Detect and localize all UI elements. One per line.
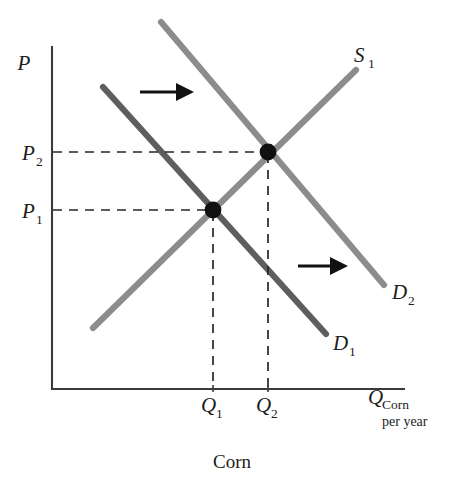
shift-arrow-lower-head <box>330 257 348 275</box>
diagram-canvas: P Q Corn per year P 2 P 1 Q 1 Q 2 S 1 <box>0 0 456 495</box>
x-axis-label-sub: Corn <box>382 397 409 412</box>
price-tick-p2-base: P <box>21 141 35 165</box>
curve-label-s1-subscript: 1 <box>368 56 375 71</box>
curves-group <box>93 22 384 334</box>
figure-caption: Corn <box>213 451 252 472</box>
price-tick-label-p2: P 2 <box>21 141 43 169</box>
equilibrium-dot-new <box>260 144 277 161</box>
price-tick-p2-subscript: 2 <box>36 154 43 169</box>
price-tick-p1-base: P <box>21 199 35 223</box>
price-tick-label-p1: P 1 <box>21 199 43 227</box>
supply-curve-s1 <box>93 70 356 328</box>
curve-label-d2-base: D <box>391 280 407 304</box>
curve-label-s1: S 1 <box>354 43 375 71</box>
shift-arrow-upper-head <box>176 83 194 101</box>
shift-arrow-upper <box>140 83 194 101</box>
quantity-tick-q1-subscript: 1 <box>216 406 223 421</box>
x-axis-label-main: Q <box>368 385 383 409</box>
quantity-tick-q2-base: Q <box>256 393 271 417</box>
curve-label-d1: D 1 <box>332 331 356 359</box>
supply-demand-figure: P Q Corn per year P 2 P 1 Q 1 Q 2 S 1 <box>0 0 456 495</box>
quantity-tick-q2-subscript: 2 <box>271 406 278 421</box>
curve-label-s1-base: S <box>354 43 365 67</box>
quantity-tick-label-q2: Q 2 <box>256 393 278 421</box>
price-tick-p1-subscript: 1 <box>36 212 43 227</box>
curve-label-d2: D 2 <box>391 280 415 308</box>
quantity-tick-label-q1: Q 1 <box>201 393 223 421</box>
curve-label-d2-subscript: 2 <box>408 293 415 308</box>
shift-arrow-lower <box>298 257 348 275</box>
x-axis-label-group: Q Corn per year <box>368 385 428 429</box>
x-axis-label-per-year: per year <box>382 414 428 429</box>
equilibrium-dot-initial <box>205 202 222 219</box>
quantity-tick-q1-base: Q <box>201 393 216 417</box>
y-axis-label: P <box>17 51 31 75</box>
curve-label-d1-base: D <box>332 331 348 355</box>
curve-label-d1-subscript: 1 <box>349 344 356 359</box>
